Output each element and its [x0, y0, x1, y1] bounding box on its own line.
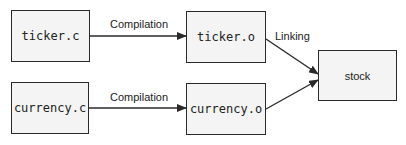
arrow-currency-linking	[266, 80, 318, 109]
edge-label-compilation-currency: Compilation	[110, 91, 168, 103]
arrow-ticker-linking	[266, 39, 318, 74]
edge-label-compilation-ticker: Compilation	[110, 18, 168, 30]
node-currency-c: currency.c	[11, 82, 89, 134]
node-label: currency.c	[14, 101, 86, 115]
node-ticker-c: ticker.c	[11, 10, 90, 62]
edge-label-linking: Linking	[275, 30, 310, 42]
node-label: stock	[345, 70, 371, 82]
node-currency-o: currency.o	[186, 83, 266, 135]
node-label: ticker.c	[22, 29, 80, 43]
node-label: currency.o	[190, 102, 262, 116]
node-ticker-o: ticker.o	[186, 11, 266, 63]
node-label: ticker.o	[197, 30, 255, 44]
node-stock: stock	[318, 50, 397, 101]
